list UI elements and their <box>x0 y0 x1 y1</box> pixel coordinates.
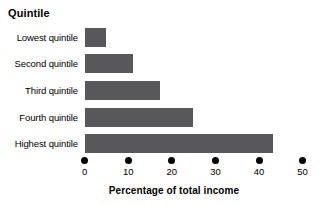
bar-highest-quintile <box>85 134 274 153</box>
x-axis-title: Percentage of total income <box>109 185 239 196</box>
bar-row: Second quintile <box>0 51 326 78</box>
bar-third-quintile <box>85 81 160 100</box>
category-label-lowest-quintile: Lowest quintile <box>0 32 78 43</box>
chart-title: Quintile <box>8 7 50 19</box>
x-axis-tick-label: 20 <box>160 166 184 177</box>
x-axis-tick-label: 10 <box>116 166 140 177</box>
bar-second-quintile <box>85 54 134 73</box>
tick-dot-icon <box>256 157 263 164</box>
x-axis-tick-label: 40 <box>247 166 271 177</box>
bar-row: Fourth quintile <box>0 104 326 131</box>
tick-dot-icon <box>81 157 88 164</box>
tick-dot-icon <box>168 157 175 164</box>
bar-fourth-quintile <box>85 108 193 127</box>
x-axis-tick-label: 0 <box>73 166 97 177</box>
category-label-highest-quintile: Highest quintile <box>0 138 78 149</box>
x-axis-tick-label: 50 <box>291 166 315 177</box>
x-axis-tick-label: 30 <box>203 166 227 177</box>
tick-dot-icon <box>299 157 306 164</box>
plot-area: Lowest quintile Second quintile Third qu… <box>0 24 326 157</box>
category-label-third-quintile: Third quintile <box>0 85 78 96</box>
category-label-fourth-quintile: Fourth quintile <box>0 112 78 123</box>
category-label-second-quintile: Second quintile <box>0 58 78 69</box>
bar-chart: Quintile Lowest quintile Second quintile… <box>0 0 326 205</box>
bar-row: Lowest quintile <box>0 24 326 51</box>
x-axis: 0 10 20 30 40 50 <box>0 157 326 187</box>
bar-lowest-quintile <box>85 28 106 47</box>
tick-dot-icon <box>212 157 219 164</box>
x-axis-title-wrapper: Percentage of total income <box>0 185 326 196</box>
bar-row: Third quintile <box>0 77 326 104</box>
bar-row: Highest quintile <box>0 130 326 157</box>
tick-dot-icon <box>125 157 132 164</box>
